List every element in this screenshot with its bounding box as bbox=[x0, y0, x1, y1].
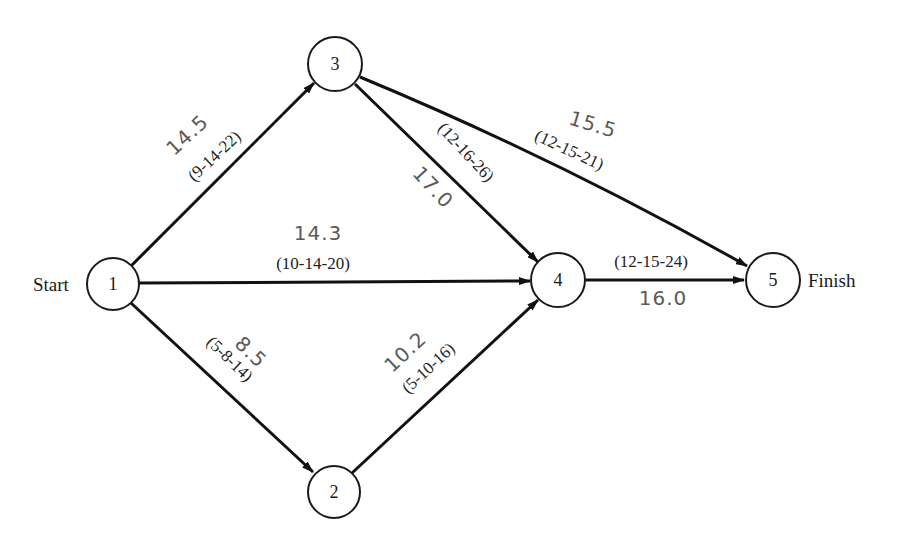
edge-1-4-estimates: (10-14-20) bbox=[276, 254, 350, 273]
node-2-label: 2 bbox=[330, 482, 339, 502]
edge-3-4-expected: 17.0 bbox=[408, 161, 459, 213]
node-5: 5 bbox=[746, 253, 800, 307]
start-label: Start bbox=[33, 274, 70, 295]
edge-2-4 bbox=[352, 300, 538, 473]
edge-4-5-estimates: (12-15-24) bbox=[614, 252, 688, 271]
edge-1-4-expected: 14.3 bbox=[294, 221, 343, 245]
node-1-label: 1 bbox=[109, 274, 118, 294]
edge-3-4-estimates: (12-16-26) bbox=[434, 119, 498, 186]
node-3-label: 3 bbox=[331, 54, 340, 74]
pert-network-diagram: 1 3 4 5 2 Start Finish 14.5 (9-14-22) 14… bbox=[0, 0, 899, 543]
node-4-label: 4 bbox=[554, 270, 563, 290]
node-1: 1 bbox=[87, 258, 139, 310]
node-2: 2 bbox=[308, 466, 360, 518]
node-3: 3 bbox=[308, 37, 362, 91]
edge-1-2 bbox=[131, 303, 313, 472]
finish-label: Finish bbox=[808, 270, 856, 291]
edge-1-3 bbox=[131, 83, 314, 266]
edge-3-4 bbox=[355, 84, 538, 262]
edge-3-5-expected: 15.5 bbox=[566, 106, 619, 143]
edge-1-4 bbox=[139, 281, 530, 283]
node-5-label: 5 bbox=[769, 270, 778, 290]
node-4: 4 bbox=[531, 253, 585, 307]
edge-4-5-expected: 16.0 bbox=[639, 286, 688, 310]
